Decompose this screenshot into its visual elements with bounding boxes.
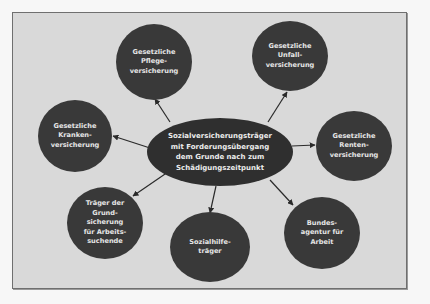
arrow-to-unfall bbox=[268, 92, 287, 122]
arrow-to-grundsicherung bbox=[133, 172, 168, 196]
arrow-to-sozialhilfe bbox=[210, 186, 216, 213]
node-unfallversicherung: Gesetzliche Unfall- versicherung bbox=[252, 21, 328, 91]
central-node-sozialversicherungstraeger: Sozialversicherungsträger mit Forderungs… bbox=[147, 118, 293, 186]
node-rentenversicherung: Gesetzliche Renten- versicherung bbox=[316, 111, 392, 181]
arrow-to-renten bbox=[292, 145, 315, 146]
node-grundsicherung-arbeitssuchende: Träger der Grund- sicherung für Arbeits-… bbox=[67, 187, 143, 259]
node-krankenversicherung: Gesetzliche Kranken- versicherung bbox=[38, 100, 112, 172]
node-pflegeversicherung: Gesetzliche Pflege- versicherung bbox=[116, 24, 192, 100]
arrow-to-kranken bbox=[113, 136, 150, 148]
arrow-to-bundesagentur bbox=[270, 180, 293, 205]
arrow-to-pflege bbox=[155, 99, 170, 122]
node-sozialhilfetraeger: Sozialhilfe- träger bbox=[170, 212, 250, 282]
node-bundesagentur-fuer-arbeit: Bundes- agentur für Arbeit bbox=[284, 197, 360, 269]
